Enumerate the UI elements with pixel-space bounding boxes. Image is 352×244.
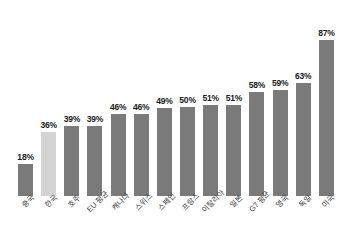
bar-group: 51% xyxy=(222,0,245,196)
axis-tick: 스페인 xyxy=(153,196,176,244)
axis-category-label: 미국 xyxy=(322,194,338,210)
bar-value-label: 51% xyxy=(226,94,242,103)
bar-group: 46% xyxy=(107,0,130,196)
plot-area: 18% 36% 39% 39% 46% 46% 49% 50% xyxy=(0,0,352,196)
bar-chart: 18% 36% 39% 39% 46% 46% 49% 50% xyxy=(0,0,352,244)
bar-value-label: 46% xyxy=(110,103,126,112)
bar-rect xyxy=(87,126,102,196)
axis-tick: 호주 xyxy=(60,196,83,244)
bar-rect xyxy=(111,114,126,196)
bar-rect xyxy=(18,164,33,196)
bar-value-label: 46% xyxy=(133,103,149,112)
axis-category-label: 일본 xyxy=(229,194,245,210)
bar-value-label: 39% xyxy=(87,115,103,124)
axis-tick: 중국 xyxy=(14,196,37,244)
axis-tick: 캐나다 xyxy=(107,196,130,244)
bar-rect xyxy=(226,105,241,196)
axis-tick: 미국 xyxy=(315,196,338,244)
bar-rect xyxy=(134,114,149,196)
axis-tick: 영국 xyxy=(269,196,292,244)
axis-tick: EU 평균 xyxy=(83,196,106,244)
bar-group: 39% xyxy=(60,0,83,196)
bar-value-label: 39% xyxy=(64,115,80,124)
axis-tick: 프랑스 xyxy=(176,196,199,244)
bar-group: 50% xyxy=(176,0,199,196)
bar-rect xyxy=(203,105,218,196)
axis-tick: 스위스 xyxy=(130,196,153,244)
axis-category-label: 독일 xyxy=(298,194,314,210)
axis-tick: G7 평균 xyxy=(245,196,268,244)
axis-tick: 한국 xyxy=(37,196,60,244)
bar-group: 36% xyxy=(37,0,60,196)
axis-category-label: 중국 xyxy=(21,194,37,210)
bar-rect xyxy=(41,132,56,196)
bar-group: 39% xyxy=(83,0,106,196)
bar-value-label: 63% xyxy=(295,72,311,81)
bar-rect xyxy=(296,83,311,196)
category-axis: 중국 한국 호주 EU 평균 캐나다 스위스 스페인 프랑스 이탈리아 일본 G… xyxy=(0,196,352,244)
axis-tick: 일본 xyxy=(222,196,245,244)
bar-group: 51% xyxy=(199,0,222,196)
bar-rect xyxy=(180,107,195,197)
axis-tick: 독일 xyxy=(292,196,315,244)
bar-rect xyxy=(249,92,264,196)
bar-rect xyxy=(157,108,172,196)
bar-value-label: 36% xyxy=(41,121,57,130)
bar-group: 49% xyxy=(153,0,176,196)
bar-group: 58% xyxy=(245,0,268,196)
bar-rect xyxy=(64,126,79,196)
bar-value-label: 49% xyxy=(156,97,172,106)
bar-group: 59% xyxy=(269,0,292,196)
axis-category-label: 한국 xyxy=(44,194,60,210)
bar-value-label: 50% xyxy=(179,96,195,105)
bar-value-label: 58% xyxy=(249,81,265,90)
bar-group: 63% xyxy=(292,0,315,196)
bar-value-label: 51% xyxy=(202,94,218,103)
bar-value-label: 87% xyxy=(318,29,334,38)
bar-value-label: 59% xyxy=(272,79,288,88)
axis-category-label: 호주 xyxy=(67,194,83,210)
bar-group: 18% xyxy=(14,0,37,196)
bar-group: 46% xyxy=(130,0,153,196)
bar-value-label: 18% xyxy=(17,153,33,162)
bar-rect xyxy=(319,40,334,196)
bar-rect xyxy=(273,90,288,196)
axis-tick: 이탈리아 xyxy=(199,196,222,244)
bar-group: 87% xyxy=(315,0,338,196)
axis-category-label: 영국 xyxy=(275,194,291,210)
